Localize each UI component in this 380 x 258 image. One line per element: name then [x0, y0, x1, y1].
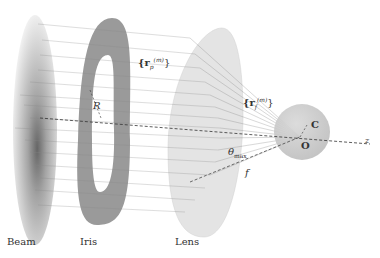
iris-label: Iris [80, 236, 97, 247]
origin-label: O [301, 140, 310, 151]
rp-label: {rp(m)} [138, 56, 170, 70]
lens-label: Lens [175, 236, 199, 247]
beam-profile [13, 15, 57, 245]
theta-max-label: θmax [228, 146, 247, 159]
optical-diagram [0, 0, 380, 258]
z-axis-label: z [365, 136, 369, 145]
sphere [274, 104, 330, 160]
beam-label: Beam [7, 236, 36, 247]
radius-label: R [93, 100, 101, 111]
lens [168, 28, 243, 237]
rf-label: {rf(m)} [243, 96, 274, 110]
center-label: C [311, 119, 319, 130]
focal-length-label: f [245, 167, 249, 178]
